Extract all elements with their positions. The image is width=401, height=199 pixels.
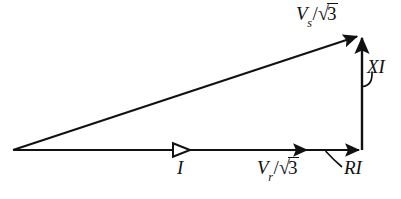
sending-voltage-phasor-line: [13, 37, 357, 151]
phasor-diagram-figure: Vs/√3 XI I Vr/√3 RI: [0, 0, 401, 199]
label-sending-voltage: Vs/√3: [296, 3, 338, 27]
label-receiving-voltage-radicand: 3: [288, 157, 299, 177]
label-reactance-drop: XI: [367, 57, 385, 76]
phasor-diagram-canvas: [0, 0, 401, 199]
label-receiving-voltage-subscript: r: [268, 170, 273, 184]
label-receiving-voltage-variable: V: [257, 157, 269, 178]
label-sending-voltage-radicand: 3: [327, 3, 338, 23]
current-arrowhead-icon: [173, 143, 190, 157]
label-resistance-drop: RI: [344, 158, 362, 177]
label-receiving-voltage: Vr/√3: [257, 157, 299, 181]
label-sending-voltage-subscript: s: [307, 16, 312, 30]
ri-leader-line: [326, 152, 342, 167]
label-current: I: [177, 158, 183, 177]
label-sending-voltage-variable: V: [296, 3, 308, 24]
